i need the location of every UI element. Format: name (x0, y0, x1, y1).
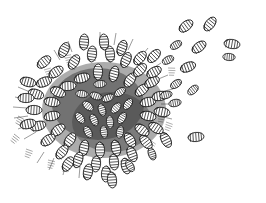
bots-larvae-illustration (0, 0, 266, 203)
scanned-page: but of BOTS (0, 0, 266, 203)
